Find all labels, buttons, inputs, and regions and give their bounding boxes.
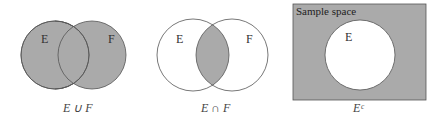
complement-diagram: Sample space E Eᶜ (293, 4, 426, 115)
sample-space-label: Sample space (296, 5, 356, 17)
caption-complement: Eᶜ (352, 101, 364, 115)
label-f: F (108, 32, 115, 46)
caption-intersection: E ∩ F (200, 101, 231, 115)
label-f: F (246, 32, 253, 46)
label-e: E (345, 30, 352, 44)
union-diagram: E F E ∪ F (21, 21, 126, 115)
label-e: E (176, 32, 183, 46)
circle-f (58, 21, 126, 89)
venn-diagrams: E F E ∪ F E F E ∩ F Sample space E Eᶜ (0, 0, 442, 121)
caption-union: E ∪ F (62, 101, 93, 115)
label-e: E (41, 32, 48, 46)
circle-e (325, 20, 395, 90)
intersection-diagram: E F E ∩ F (157, 19, 268, 115)
